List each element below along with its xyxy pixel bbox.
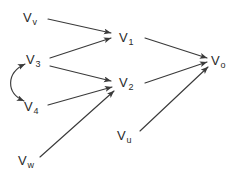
edge-v1-to-vo	[145, 38, 207, 58]
node-vv[interactable]: Vv	[23, 11, 37, 27]
node-vw-subscript: w	[27, 160, 34, 170]
edge-v3-to-v2	[50, 66, 111, 81]
edge-v3-to-v1	[50, 38, 111, 58]
node-vu-subscript: u	[126, 135, 132, 145]
node-vo-base: V	[211, 53, 220, 68]
node-vv-base: V	[23, 10, 32, 25]
node-v2-base: V	[119, 75, 128, 90]
node-vw[interactable]: Vw	[18, 154, 34, 170]
node-vo-subscript: o	[220, 60, 226, 70]
edge-vu-to-vo	[140, 67, 208, 131]
edge-v2-to-vo	[145, 62, 207, 83]
node-v2[interactable]: V2	[119, 76, 133, 92]
node-vu[interactable]: Vu	[117, 129, 131, 145]
edge-v3-bidirected-v4	[11, 64, 25, 101]
causal-diagram: Vv V3 V4 Vw V1 V2 Vu Vo	[0, 0, 246, 182]
node-vw-base: V	[18, 153, 27, 168]
node-v1-base: V	[119, 30, 128, 45]
node-v3[interactable]: V3	[26, 53, 40, 69]
node-vv-subscript: v	[32, 17, 37, 27]
node-v1[interactable]: V1	[119, 31, 133, 47]
node-v4-base: V	[24, 99, 33, 114]
node-v3-subscript: 3	[35, 59, 41, 69]
node-v2-subscript: 2	[128, 82, 134, 92]
edge-vv-to-v1	[48, 19, 111, 33]
node-v4-subscript: 4	[33, 106, 39, 116]
node-vo[interactable]: Vo	[211, 54, 225, 70]
edge-vw-to-v2	[40, 91, 114, 157]
node-v1-subscript: 1	[128, 37, 134, 47]
edge-v4-to-v2	[48, 87, 112, 105]
node-vu-base: V	[117, 128, 126, 143]
node-v3-base: V	[26, 52, 35, 67]
node-v4[interactable]: V4	[24, 100, 38, 116]
